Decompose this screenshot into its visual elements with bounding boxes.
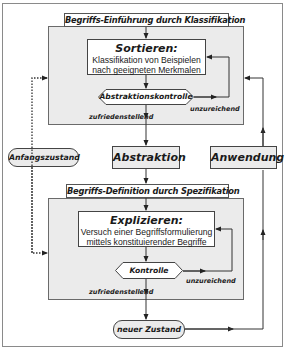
connector-lines	[0, 0, 289, 353]
